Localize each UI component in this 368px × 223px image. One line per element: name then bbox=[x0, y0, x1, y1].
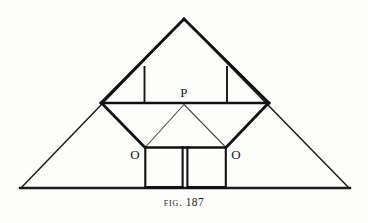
figure-caption-prefix: FIG. bbox=[164, 196, 183, 208]
trapezoid-legs-group bbox=[102, 103, 269, 148]
point-label-o-right: O bbox=[231, 148, 240, 161]
ray-P-to-O-left-line bbox=[146, 105, 185, 148]
squares-group bbox=[144, 146, 227, 188]
geometric-diagram bbox=[0, 0, 368, 223]
point-label-p: P bbox=[180, 86, 187, 99]
figure-caption: FIG.187 bbox=[0, 196, 368, 208]
figure-caption-number: 187 bbox=[186, 196, 204, 208]
figure-container: P O O FIG.187 bbox=[0, 0, 368, 223]
trapezoid-left-leg-line bbox=[102, 103, 146, 148]
point-label-o-left: O bbox=[130, 148, 139, 161]
trapezoid-right-leg-line bbox=[226, 103, 269, 148]
p-rays-group bbox=[146, 105, 226, 148]
ray-P-to-O-right-line bbox=[184, 105, 226, 148]
inner-triangle-left-side-line bbox=[101, 19, 184, 103]
